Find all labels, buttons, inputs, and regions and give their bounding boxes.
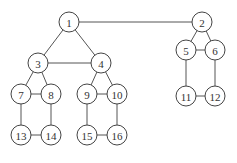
node-label: 4 xyxy=(98,58,104,70)
node-7: 7 xyxy=(11,84,31,104)
node-4: 4 xyxy=(91,53,111,73)
edges xyxy=(21,22,215,135)
node-label: 7 xyxy=(18,89,24,101)
node-13: 13 xyxy=(11,125,31,145)
node-9: 9 xyxy=(77,84,97,104)
node-label: 3 xyxy=(35,58,41,70)
node-label: 14 xyxy=(46,130,58,142)
node-15: 15 xyxy=(77,125,97,145)
node-10: 10 xyxy=(107,84,127,104)
node-label: 1 xyxy=(66,17,72,29)
node-2: 2 xyxy=(192,12,212,32)
node-label: 8 xyxy=(48,89,54,101)
node-label: 16 xyxy=(112,130,124,142)
node-label: 12 xyxy=(210,91,221,103)
node-label: 9 xyxy=(84,89,90,101)
node-label: 13 xyxy=(16,130,28,142)
node-16: 16 xyxy=(107,125,127,145)
node-3: 3 xyxy=(28,53,48,73)
node-label: 15 xyxy=(82,130,94,142)
node-5: 5 xyxy=(176,40,196,60)
node-label: 6 xyxy=(212,45,218,57)
node-11: 11 xyxy=(176,86,196,106)
nodes: 12345678910111213141516 xyxy=(11,12,225,145)
node-label: 11 xyxy=(181,91,192,103)
node-label: 10 xyxy=(112,89,124,101)
node-14: 14 xyxy=(41,125,61,145)
node-6: 6 xyxy=(205,40,225,60)
node-label: 2 xyxy=(199,17,205,29)
node-12: 12 xyxy=(205,86,225,106)
node-1: 1 xyxy=(59,12,79,32)
graph-diagram: 12345678910111213141516 xyxy=(0,0,237,163)
node-8: 8 xyxy=(41,84,61,104)
node-label: 5 xyxy=(183,45,189,57)
